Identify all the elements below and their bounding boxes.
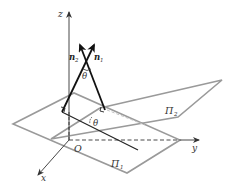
x-axis-label: x — [41, 173, 46, 183]
plane-label-pi1: Π 1 — [110, 158, 124, 170]
x-axis — [38, 140, 69, 175]
plane-pi1 — [13, 93, 180, 173]
svg-text:1: 1 — [120, 164, 124, 170]
angle-arc-planes — [90, 117, 92, 124]
svg-text:Π: Π — [164, 105, 174, 116]
plane-label-pi2: Π 2 — [164, 105, 178, 117]
y-axis-label: y — [191, 143, 198, 153]
theta-label-planes: θ — [93, 118, 98, 128]
origin-label: O — [74, 143, 82, 154]
normal-vector-n1 — [62, 45, 94, 112]
svg-text:2: 2 — [74, 57, 79, 63]
plane-pi2 — [51, 80, 222, 139]
normal-label-n1: n 1 — [94, 52, 104, 63]
normal-label-n2: n 2 — [69, 52, 79, 63]
svg-text:Π: Π — [110, 158, 120, 169]
svg-text:2: 2 — [173, 111, 178, 117]
svg-text:1: 1 — [100, 57, 104, 63]
diagram-canvas: z y x O n 2 n 1 θ θ Π 2 Π 1 — [0, 0, 232, 187]
theta-label-normals: θ — [82, 71, 87, 81]
z-axis-label: z — [57, 9, 63, 19]
